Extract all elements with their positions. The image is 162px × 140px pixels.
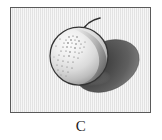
illustration-frame [10, 7, 151, 113]
figure-root: C [0, 0, 162, 140]
panel-caption: C [0, 116, 162, 136]
fruit-illustration [11, 8, 150, 112]
